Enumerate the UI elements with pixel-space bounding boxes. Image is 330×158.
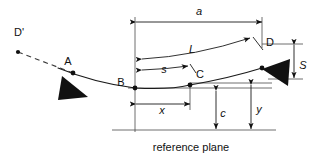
dimension-s-label: s xyxy=(161,63,167,75)
point-c-dot xyxy=(188,83,193,88)
dimension-y: y xyxy=(251,85,263,129)
dimension-S: S xyxy=(294,45,307,78)
support-at-a xyxy=(58,76,88,100)
diagram-canvas: a L s x c y xyxy=(0,0,330,158)
point-c-label: C xyxy=(196,68,204,80)
dimension-L-arc xyxy=(142,38,250,59)
dimension-c-label: c xyxy=(220,107,226,119)
point-dprime-dot xyxy=(16,50,20,54)
dimension-S-label: S xyxy=(299,59,307,71)
dimension-L-label: L xyxy=(189,43,195,55)
dimension-x-label: x xyxy=(158,104,165,116)
point-b-dot xyxy=(133,86,138,91)
dimension-c: c xyxy=(216,91,226,129)
dimension-L-leader xyxy=(253,37,263,50)
point-d-dot xyxy=(260,66,265,71)
support-triangle-d xyxy=(262,59,290,86)
support-at-d xyxy=(262,59,290,86)
reference-plane-label: reference plane xyxy=(153,141,229,153)
dimension-x: x xyxy=(136,104,190,116)
dimension-L: L xyxy=(142,37,263,59)
point-b-label: B xyxy=(117,76,124,88)
cable-sag-diagram: a L s x c y xyxy=(0,0,330,158)
dimension-s: s xyxy=(142,63,196,75)
point-a-label: A xyxy=(64,55,72,67)
point-a-dot xyxy=(71,71,76,76)
dimension-y-label: y xyxy=(255,103,263,115)
point-dprime-label: D' xyxy=(14,26,24,38)
support-triangle-a xyxy=(58,76,88,100)
cable-curve xyxy=(58,68,262,89)
dimension-a: a xyxy=(136,5,262,22)
dimension-a-label: a xyxy=(196,5,202,17)
point-d-label: D xyxy=(266,36,274,48)
